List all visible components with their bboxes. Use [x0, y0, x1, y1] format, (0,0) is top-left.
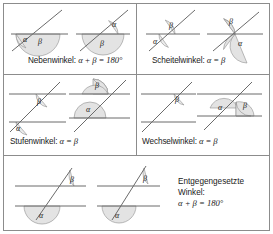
caption-scheitelwinkel-name: Scheitelwinkel — [152, 56, 202, 65]
caption-entgegen-line2: Winkel: — [178, 188, 244, 199]
caption-nebenwinkel-name: Nebenwinkel — [28, 56, 74, 65]
caption-scheitelwinkel: Scheitelwinkel: α = β — [152, 55, 225, 65]
caption-entgegen-line1: Entgegengesetzte — [178, 177, 244, 188]
caption-stufenwinkel-relation: α = β — [60, 136, 78, 146]
label-beta: β — [36, 97, 41, 106]
diagram-stufenwinkel-b: β α — [68, 78, 132, 134]
row-divider-2 — [4, 155, 269, 156]
caption-nebenwinkel: Nebenwinkel: α + β = 180° — [28, 55, 122, 65]
diagram-stufenwinkel-a: β α — [8, 80, 70, 134]
caption-nebenwinkel-relation: α + β = 180° — [78, 55, 122, 65]
diagram-wechselwinkel-a: β — [140, 80, 200, 134]
caption-entgegengesetzte-winkel: Entgegengesetzte Winkel: α + β = 180° — [178, 177, 244, 209]
label-beta: β — [37, 37, 42, 46]
label-beta: β — [99, 39, 104, 48]
label-beta: β — [142, 174, 147, 183]
label-beta: β — [242, 101, 247, 110]
diagram-entgegen-a: β α — [14, 160, 94, 226]
diagram-entgegen-b: β α — [96, 160, 176, 226]
label-alpha: α — [153, 37, 158, 46]
diagram-scheitelwinkel-b: β α — [205, 6, 265, 54]
column-divider-row1 — [136, 4, 137, 74]
diagram-wechselwinkel-b: α β — [196, 80, 266, 134]
caption-stufenwinkel: Stufenwinkel: α = β — [10, 136, 78, 146]
label-beta: β — [168, 21, 173, 30]
label-beta: β — [94, 81, 99, 90]
diagram-nebenwinkel-b: α β — [74, 6, 134, 54]
transversal-line — [142, 82, 192, 132]
caption-wechselwinkel-relation: α = β — [199, 136, 217, 146]
caption-scheitelwinkel-relation: α = β — [207, 55, 225, 65]
geometry-reference-figure: α β α β Nebenwinkel: α + β = 180° α β — [0, 0, 273, 234]
label-beta: β — [228, 17, 233, 26]
diagram-nebenwinkel-a: α β — [10, 6, 72, 54]
column-divider-row2 — [136, 75, 137, 155]
label-beta: β — [174, 95, 179, 104]
caption-wechselwinkel-name: Wechselwinkel — [142, 137, 195, 146]
caption-wechselwinkel: Wechselwinkel: α = β — [142, 136, 217, 146]
diagram-scheitelwinkel-a: α β — [145, 6, 203, 54]
label-alpha: α — [238, 39, 243, 48]
caption-stufenwinkel-name: Stufenwinkel — [10, 137, 55, 146]
label-beta: β — [69, 175, 74, 184]
caption-entgegen-line3: α + β = 180° — [178, 198, 244, 209]
